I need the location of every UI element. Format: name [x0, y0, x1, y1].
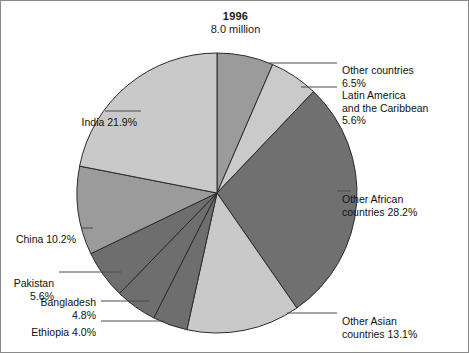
pie-chart-figure: 1996 8.0 million Other countries 6.5% La… [0, 0, 469, 353]
callout-pakistan-label: Pakistan 5.6% [14, 277, 54, 301]
callout-china: China 10.2% [1, 221, 76, 246]
pie-slice-group [77, 53, 357, 333]
callout-india-label: India 21.9% [82, 116, 137, 128]
callout-latin-america-label: Latin America and the Caribbean 5.6% [342, 89, 428, 126]
callout-china-label: China 10.2% [16, 233, 76, 245]
callout-other-asian-countries: Other Asian countries 13.1% [342, 303, 417, 340]
callout-latin-america: Latin America and the Caribbean 5.6% [342, 77, 428, 127]
callout-pakistan: Pakistan 5.6% [1, 265, 54, 302]
callout-other-african-countries-label: Other African countries 28.2% [342, 193, 417, 217]
callout-other-african-countries: Other African countries 28.2% [342, 181, 417, 218]
callout-other-asian-countries-label: Other Asian countries 13.1% [342, 315, 417, 339]
callout-india: India 21.9% [1, 104, 137, 129]
callout-ethiopia-label: Ethiopia 4.0% [31, 326, 96, 338]
